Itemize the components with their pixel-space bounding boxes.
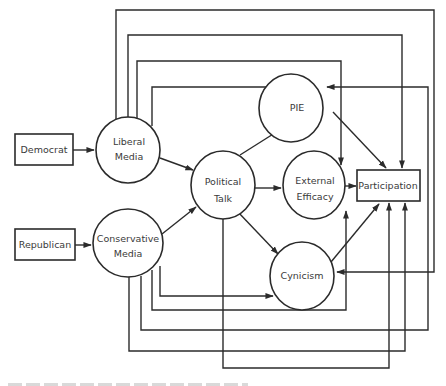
node-liberal-media-line1: Liberal <box>113 136 145 147</box>
node-republican: Republican <box>15 229 75 260</box>
node-participation-label: Participation <box>358 180 417 191</box>
node-pie-label: PIE <box>290 102 305 113</box>
node-liberal-media-line2: Media <box>115 151 144 162</box>
node-pie: PIE <box>259 74 323 142</box>
node-cynicism-label: Cynicism <box>281 270 324 281</box>
path-diagram: Democrat Republican Liberal Media Conser… <box>0 0 446 386</box>
node-external-efficacy-line1: External <box>295 175 334 186</box>
node-political-talk-line1: Political <box>205 176 242 187</box>
node-participation: Participation <box>357 170 420 201</box>
node-conservative-media: Conservative Media <box>93 209 163 277</box>
node-external-efficacy-line2: Efficacy <box>296 191 333 202</box>
edge-cynicism-participation <box>331 204 379 262</box>
edge-conservative-media-participation <box>129 203 405 351</box>
node-democrat: Democrat <box>15 134 73 165</box>
node-liberal-media: Liberal Media <box>96 117 160 183</box>
node-conservative-media-line1: Conservative <box>97 233 160 244</box>
node-political-talk-line2: Talk <box>213 193 233 204</box>
node-republican-label: Republican <box>19 239 71 250</box>
node-conservative-media-line2: Media <box>114 248 143 259</box>
node-democrat-label: Democrat <box>21 144 68 155</box>
node-cynicism: Cynicism <box>270 242 334 310</box>
edge-liberal-media-political-talk <box>160 158 193 170</box>
figure-caption-clipped <box>8 379 248 386</box>
edge-conservative-media-political-talk <box>162 207 196 234</box>
edge-political-talk-cynicism <box>238 212 278 254</box>
edge-liberal-media-pie <box>152 87 275 126</box>
node-external-efficacy: External Efficacy <box>283 151 345 219</box>
edge-conservative-media-cynicism <box>160 266 273 296</box>
node-political-talk: Political Talk <box>191 151 255 219</box>
